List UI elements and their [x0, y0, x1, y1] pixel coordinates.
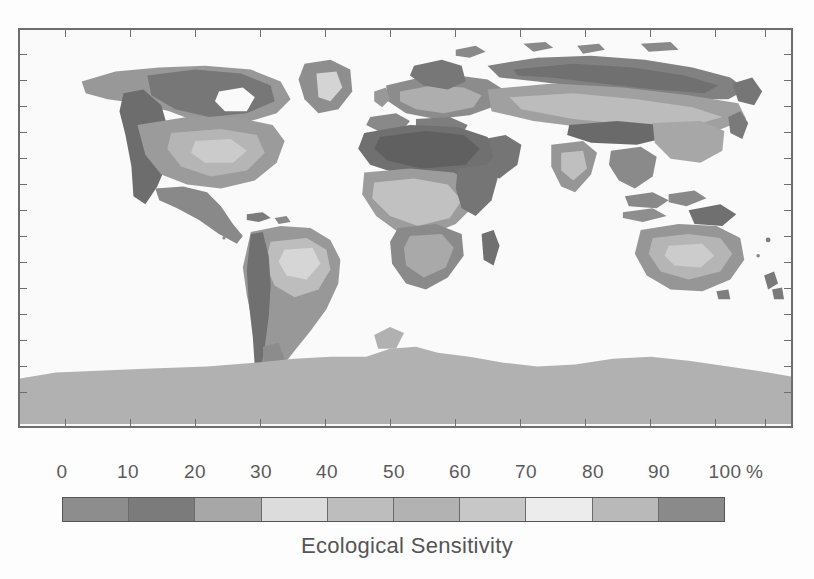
map-tick-top	[455, 30, 456, 37]
map-tick-right	[784, 80, 791, 81]
colorbar-band-20-30	[195, 498, 261, 521]
map-tick-top	[765, 30, 766, 37]
colorbar-tick-10: 10	[117, 461, 139, 483]
map-tick-right	[784, 54, 791, 55]
map-tick-right	[784, 340, 791, 341]
colorbar-band-10-20	[129, 498, 195, 521]
map-tick-bottom	[195, 419, 196, 426]
colorbar-band-70-80	[526, 498, 592, 521]
colorbar-tick-50: 50	[383, 461, 405, 483]
map-tick-left	[20, 366, 27, 367]
colorbar-band-0-10	[63, 498, 129, 521]
map-tick-top	[715, 30, 716, 37]
colorbar-band-30-40	[262, 498, 328, 521]
map-tick-left	[20, 288, 27, 289]
colorbar-tick-70: 70	[515, 461, 537, 483]
map-tick-bottom	[390, 419, 391, 426]
map-tick-right	[784, 262, 791, 263]
map-tick-right	[784, 132, 791, 133]
map-tick-left	[20, 80, 27, 81]
map-tick-top	[65, 30, 66, 37]
map-tick-right	[784, 288, 791, 289]
map-tick-right	[784, 158, 791, 159]
map-tick-top	[130, 30, 131, 37]
colorbar-band-90-100	[659, 498, 724, 521]
map-tick-right	[784, 236, 791, 237]
map-tick-left	[20, 236, 27, 237]
colorbar-band-60-70	[460, 498, 526, 521]
colorbar-tick-40: 40	[316, 461, 338, 483]
map-tick-left	[20, 210, 27, 211]
colorbar-tick-0: 0	[56, 461, 67, 483]
colorbar-caption: Ecological Sensitivity	[0, 533, 814, 559]
map-tick-top	[520, 30, 521, 37]
colorbar-tick-80: 80	[582, 461, 604, 483]
map-tick-bottom	[65, 419, 66, 426]
map-tick-bottom	[520, 419, 521, 426]
map-tick-bottom	[130, 419, 131, 426]
map-tick-right	[784, 210, 791, 211]
colorbar-tick-20: 20	[184, 461, 206, 483]
colorbar-band-40-50	[328, 498, 394, 521]
figure-ecological-sensitivity-map: 0 10 20 30 40 50 60 70 80 90 100 % Ecolo…	[0, 0, 814, 579]
map-tick-right	[784, 392, 791, 393]
map-tick-left	[20, 392, 27, 393]
map-tick-bottom	[455, 419, 456, 426]
map-tick-top	[195, 30, 196, 37]
map-tick-right	[784, 366, 791, 367]
map-tick-bottom	[650, 419, 651, 426]
world-map-canvas	[20, 30, 791, 426]
map-tick-left	[20, 106, 27, 107]
map-tick-top	[650, 30, 651, 37]
map-tick-right	[784, 184, 791, 185]
map-tick-bottom	[715, 419, 716, 426]
map-tick-bottom	[260, 419, 261, 426]
map-tick-left	[20, 132, 27, 133]
colorbar-band-50-60	[394, 498, 460, 521]
map-tick-right	[784, 314, 791, 315]
map-tick-left	[20, 262, 27, 263]
cropped-title-remnant	[0, 0, 814, 10]
map-tick-left	[20, 340, 27, 341]
map-tick-left	[20, 158, 27, 159]
colorbar-tick-90: 90	[648, 461, 670, 483]
map-tick-top	[260, 30, 261, 37]
map-tick-top	[585, 30, 586, 37]
map-tick-bottom	[325, 419, 326, 426]
colorbar-tick-100: 100	[708, 461, 741, 483]
map-tick-left	[20, 184, 27, 185]
colorbar-unit-percent: %	[746, 461, 763, 483]
colorbar-swatch-strip	[62, 497, 725, 522]
colorbar-band-80-90	[593, 498, 659, 521]
map-tick-top	[390, 30, 391, 37]
map-tick-top	[325, 30, 326, 37]
colorbar-legend: 0 10 20 30 40 50 60 70 80 90 100 % Ecolo…	[0, 455, 814, 487]
map-tick-bottom	[585, 419, 586, 426]
map-tick-left	[20, 314, 27, 315]
colorbar-tick-labels: 0 10 20 30 40 50 60 70 80 90 100 %	[0, 455, 814, 487]
map-tick-right	[784, 106, 791, 107]
map-tick-bottom	[765, 419, 766, 426]
colorbar-tick-30: 30	[250, 461, 272, 483]
colorbar-tick-60: 60	[449, 461, 471, 483]
world-map-frame	[18, 28, 793, 428]
map-tick-left	[20, 54, 27, 55]
